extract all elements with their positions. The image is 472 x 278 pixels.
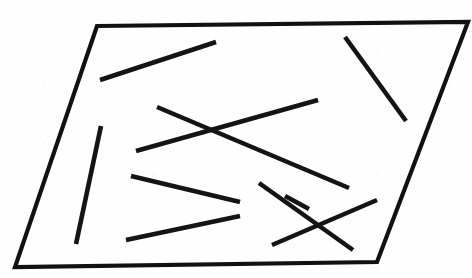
figure-canvas bbox=[0, 0, 472, 278]
line-drawing-svg bbox=[0, 0, 472, 278]
